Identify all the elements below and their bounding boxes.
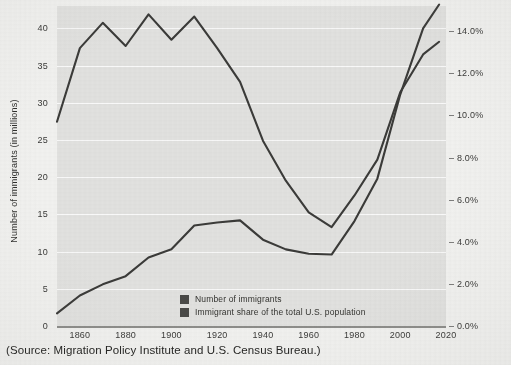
x-axis-tick-label: 2020 (436, 330, 457, 340)
left-axis-tick-label: 10 (0, 247, 48, 257)
legend-swatch-icon (180, 308, 189, 317)
left-axis-title: Number of immigrants (in millions) (9, 91, 19, 251)
source-caption: (Source: Migration Policy Institute and … (6, 344, 321, 356)
right-axis-tick-label: 14.0% (449, 26, 499, 36)
legend-item: Number of immigrants (180, 294, 366, 304)
x-axis-tick-label: 1920 (207, 330, 228, 340)
right-axis-tick-label: 4.0% (449, 237, 499, 247)
left-axis-tick-label: 20 (0, 172, 48, 182)
right-axis-tick-label: 0.0% (449, 321, 499, 331)
x-axis-tick-label: 2000 (390, 330, 411, 340)
series-line (57, 5, 439, 314)
x-axis-tick-label: 1880 (115, 330, 136, 340)
x-axis-tick-label: 1960 (298, 330, 319, 340)
legend-item-label: Number of immigrants (195, 294, 282, 304)
right-axis-tick-label: 10.0% (449, 110, 499, 120)
left-axis-tick-label: 40 (0, 23, 48, 33)
series-line (57, 14, 439, 227)
series-lines (57, 6, 446, 326)
left-axis-tick-label: 25 (0, 135, 48, 145)
left-axis-tick-label: 5 (0, 284, 48, 294)
x-axis-tick-label: 1860 (69, 330, 90, 340)
left-axis-tick-label: 15 (0, 209, 48, 219)
right-axis-tick-label: 2.0% (449, 279, 499, 289)
left-axis-tick-label: 35 (0, 61, 48, 71)
x-axis-line (57, 326, 446, 328)
legend-item: Immigrant share of the total U.S. popula… (180, 307, 366, 317)
legend: Number of immigrants Immigrant share of … (180, 294, 366, 320)
x-axis-tick-label: 1900 (161, 330, 182, 340)
left-axis-tick-label: 0 (0, 321, 48, 331)
x-axis-tick-label: 1980 (344, 330, 365, 340)
x-axis-tick-label: 1940 (253, 330, 274, 340)
legend-swatch-icon (180, 295, 189, 304)
right-axis-tick-label: 12.0% (449, 68, 499, 78)
left-axis-tick-label: 30 (0, 98, 48, 108)
right-axis-tick-label: 6.0% (449, 195, 499, 205)
plot-area (57, 6, 446, 326)
right-axis-tick-label: 8.0% (449, 153, 499, 163)
legend-item-label: Immigrant share of the total U.S. popula… (195, 307, 366, 317)
chart-figure: 0510152025303540 0.0%2.0%4.0%6.0%8.0%10.… (0, 0, 511, 365)
page-root: 0510152025303540 0.0%2.0%4.0%6.0%8.0%10.… (0, 0, 511, 365)
